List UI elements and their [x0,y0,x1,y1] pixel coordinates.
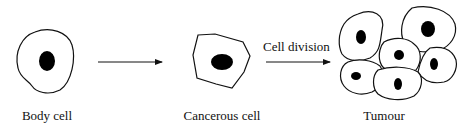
tumour-cell-6-nucleus [394,78,402,90]
cancer-progression-diagram: Body cell Cancerous cell Cell division [0,0,466,129]
tumour-cell-2-nucleus [421,21,435,37]
body-cell-label: Body cell [22,108,73,123]
body-cell: Body cell [17,30,74,123]
tumour: Tumour [339,7,456,123]
cancerous-cell: Cancerous cell [184,34,261,123]
arrow-cancerous-to-tumour: Cell division [263,39,330,62]
tumour-label: Tumour [363,108,405,123]
cancerous-cell-label: Cancerous cell [184,108,261,123]
tumour-cell-1-nucleus [356,30,366,44]
tumour-cell-3-nucleus [394,50,404,60]
body-cell-nucleus [39,51,55,71]
cancerous-cell-nucleus [211,54,233,70]
cell-division-label: Cell division [263,39,330,54]
tumour-cell-4-nucleus [430,58,438,70]
tumour-cell-5-nucleus [351,72,361,80]
